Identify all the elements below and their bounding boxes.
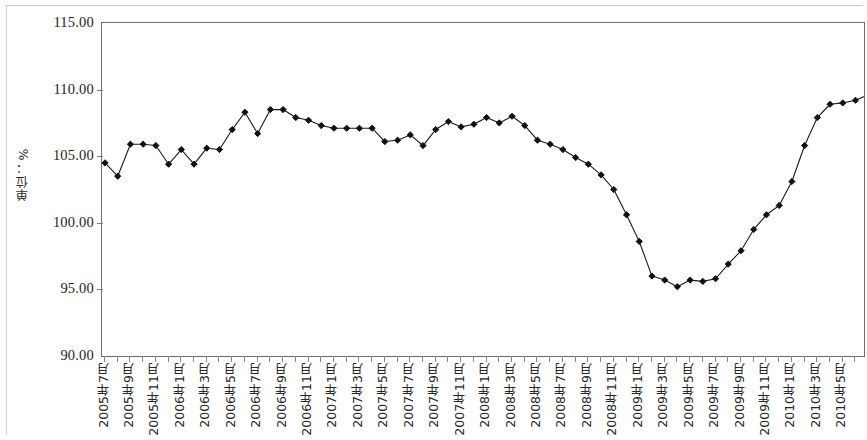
- y-axis-tick-mark: [97, 90, 103, 91]
- x-axis-tick-label: 2006年3月: [199, 362, 212, 428]
- data-point-marker: [305, 117, 311, 123]
- data-point-marker: [255, 130, 261, 136]
- data-point-marker: [852, 97, 858, 103]
- x-axis-tick-label: 2007年7月: [403, 362, 416, 428]
- data-point-marker: [700, 278, 706, 284]
- x-axis-tick-label: 2009年7月: [708, 362, 721, 428]
- data-point-marker: [687, 277, 693, 283]
- data-point-marker: [293, 114, 299, 120]
- x-axis-tick-label: 2008年1月: [479, 362, 492, 428]
- x-axis-tick-label: 2006年7月: [250, 362, 263, 428]
- series-line: [105, 95, 864, 287]
- data-point-marker: [331, 125, 337, 131]
- document-rule-left: [6, 5, 7, 435]
- data-point-marker: [153, 142, 159, 148]
- y-axis-tick-label: 100.00: [53, 213, 94, 230]
- data-point-marker: [840, 100, 846, 106]
- x-axis-tick-label: 2009年9月: [734, 362, 747, 428]
- data-point-marker: [674, 284, 680, 290]
- x-axis-tick-label: 2009年1月: [632, 362, 645, 428]
- x-axis-tick-label: 2010年1月: [784, 362, 797, 428]
- data-point-marker: [127, 141, 133, 147]
- x-axis-tick-label: 2008年9月: [581, 362, 594, 428]
- data-point-marker: [140, 141, 146, 147]
- data-point-marker: [394, 137, 400, 143]
- data-point-marker: [318, 122, 324, 128]
- y-axis-tick-label: 110.00: [53, 80, 94, 97]
- x-axis-tick-label: 2008年7月: [555, 362, 568, 428]
- x-axis-tick-label: 2009年3月: [657, 362, 670, 428]
- x-axis-tick-label: 2007年9月: [428, 362, 441, 428]
- data-point-marker: [662, 277, 668, 283]
- y-axis-tick-labels: 90.0095.00100.00105.00110.00115.00: [22, 0, 98, 440]
- chart-page: 单位：% 90.0095.00100.00105.00110.00115.00 …: [0, 0, 867, 440]
- x-axis-tick-label: 2006年5月: [225, 362, 238, 428]
- data-point-marker: [636, 238, 642, 244]
- data-point-marker: [458, 124, 464, 130]
- data-point-marker: [649, 273, 655, 279]
- data-point-marker: [560, 146, 566, 152]
- data-point-marker: [789, 178, 795, 184]
- data-point-marker: [547, 141, 553, 147]
- y-axis-tick-label: 115.00: [53, 14, 94, 31]
- data-point-marker: [623, 212, 629, 218]
- x-axis-tick-label: 2007年5月: [377, 362, 390, 428]
- x-axis-tick-label: 2010年3月: [810, 362, 823, 428]
- data-point-marker: [496, 120, 502, 126]
- x-axis-tick-label: 2006年11月: [301, 362, 314, 436]
- x-axis-tick-label: 2009年5月: [683, 362, 696, 428]
- data-point-marker: [216, 146, 222, 152]
- x-axis-tick-label: 2005年11月: [148, 362, 161, 436]
- document-rule-top: [6, 5, 863, 6]
- data-point-marker: [573, 154, 579, 160]
- data-point-marker: [802, 142, 808, 148]
- plot-area: [101, 22, 865, 357]
- data-point-marker: [471, 121, 477, 127]
- x-axis-tick-label: 2005年7月: [98, 362, 111, 428]
- x-axis-tick-label: 2010年5月: [835, 362, 848, 428]
- x-axis-tick-label: 2005年9月: [123, 362, 136, 428]
- data-point-marker: [484, 114, 490, 120]
- y-axis-tick-mark: [97, 223, 103, 224]
- x-axis-tick-label: 2007年3月: [352, 362, 365, 428]
- x-axis-tick-label: 2008年5月: [530, 362, 543, 428]
- data-point-marker: [445, 118, 451, 124]
- data-point-marker: [267, 106, 273, 112]
- y-axis-tick-mark: [97, 289, 103, 290]
- y-axis-tick-label: 95.00: [60, 280, 94, 297]
- data-point-marker: [280, 106, 286, 112]
- x-axis-tick-label: 2006年1月: [174, 362, 187, 428]
- x-axis-tick-labels: 2005年7月2005年9月2005年11月2006年1月2006年3月2006…: [101, 362, 864, 440]
- y-axis-tick-label: 90.00: [60, 347, 94, 364]
- y-axis-tick-label: 105.00: [53, 147, 94, 164]
- x-axis-tick-label: 2008年11月: [606, 362, 619, 436]
- x-axis-tick-label: 2008年3月: [505, 362, 518, 428]
- data-point-marker: [356, 125, 362, 131]
- x-axis-tick-label: 2007年11月: [454, 362, 467, 436]
- y-axis-tick-mark: [97, 156, 103, 157]
- x-axis-tick-label: 2009年11月: [759, 362, 772, 436]
- x-axis-tick-label: 2006年9月: [276, 362, 289, 428]
- line-chart-svg: [102, 23, 864, 356]
- data-point-marker: [344, 125, 350, 131]
- x-axis-tick-label: 2007年1月: [326, 362, 339, 428]
